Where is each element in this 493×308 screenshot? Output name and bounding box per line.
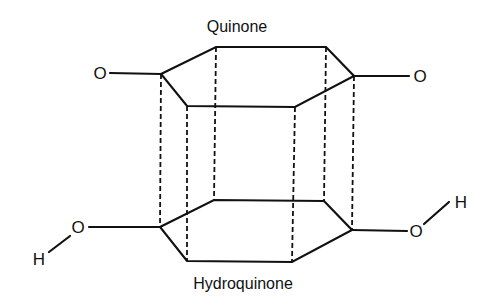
connector-right: [352, 76, 354, 230]
quinone-hydroquinone-diagram: O O O H O H Quinone Hydroquinone: [0, 0, 493, 308]
bond-bottom-left-oh: [49, 236, 70, 252]
atom-h-bottom-left: H: [33, 250, 45, 269]
quinone-label: Quinone: [207, 18, 268, 35]
hydroquinone-ring: [160, 200, 352, 262]
dashed-connectors: [160, 47, 354, 262]
atom-o-bottom-left: O: [71, 218, 84, 237]
atom-o-top-left: O: [93, 64, 106, 83]
connector-front-right: [292, 107, 295, 262]
atom-o-bottom-right: O: [409, 222, 422, 241]
hydroquinone-label: Hydroquinone: [193, 275, 293, 292]
bond-top-left-o: [110, 73, 161, 74]
atom-h-bottom-right: H: [455, 193, 467, 212]
connector-left: [160, 74, 161, 227]
connector-back-left: [214, 47, 216, 200]
bond-bottom-right-o: [352, 230, 407, 231]
bond-bottom-right-oh: [424, 202, 449, 224]
connector-back-right: [324, 47, 326, 201]
atom-o-top-right: O: [413, 67, 426, 86]
